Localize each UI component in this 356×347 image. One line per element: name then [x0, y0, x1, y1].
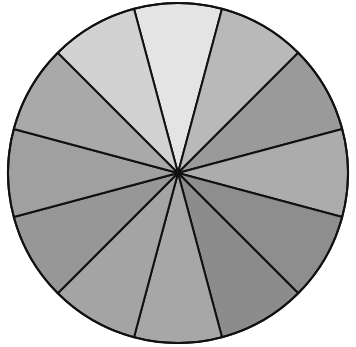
center-point: [175, 170, 181, 176]
divided-circle-diagram: [0, 0, 356, 347]
circle-sectors: [0, 0, 356, 347]
